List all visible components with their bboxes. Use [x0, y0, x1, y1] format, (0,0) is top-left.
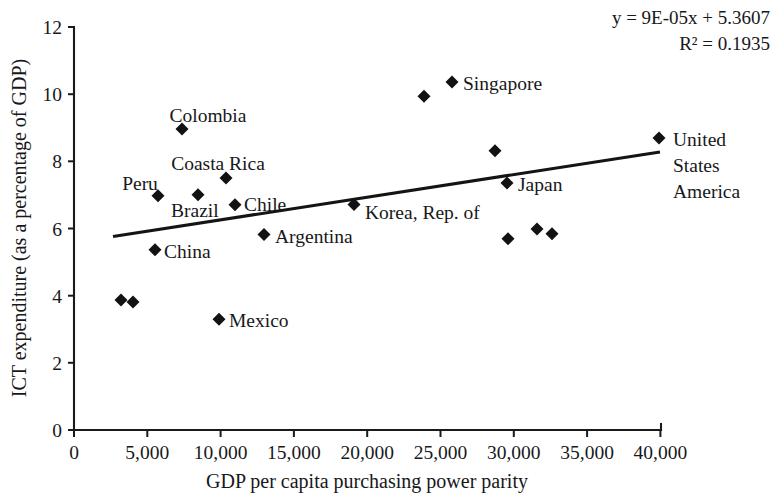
x-tick-label-0: 0	[69, 442, 79, 463]
chart-svg: 0 2 4 6 8 10 12 0 5,000 10,000 15,000 20…	[0, 0, 775, 500]
point-label-colombia: Colombia	[170, 105, 247, 126]
y-tick-label-12: 12	[43, 17, 63, 38]
data-point	[127, 296, 140, 309]
x-tick-label-10000: 10,000	[194, 442, 248, 463]
y-tick-label-8: 8	[52, 151, 62, 172]
point-label-chile: Chile	[244, 194, 286, 215]
point-label-brazil: Brazil	[171, 200, 219, 221]
y-axis-title: ICT expenditure (as a percentage of GDP)	[8, 59, 31, 397]
point-label-costa-rica: Coasta Rica	[171, 153, 265, 174]
x-tick-label-30000: 30,000	[487, 442, 541, 463]
r-squared-label: R² = 0.1935	[679, 33, 770, 54]
point-labels: China Peru Colombia Brazil Mexico Coasta…	[122, 73, 740, 331]
point-label-argentina: Argentina	[275, 226, 353, 247]
y-tick-label-4: 4	[52, 286, 62, 307]
point-label-korea: Korea, Rep. of	[365, 202, 480, 223]
data-point	[115, 294, 128, 307]
x-tick-label-5000: 5,000	[125, 442, 169, 463]
point-label-china: China	[164, 241, 211, 262]
data-point-mexico	[213, 313, 226, 326]
data-point	[531, 223, 544, 236]
x-tick-label-40000: 40,000	[634, 442, 688, 463]
y-axis-tick-labels: 0 2 4 6 8 10 12	[43, 17, 63, 441]
point-label-singapore: Singapore	[463, 73, 542, 94]
data-point	[489, 144, 502, 157]
point-label-usa-line1: United	[673, 129, 726, 150]
y-tick-label-10: 10	[43, 84, 63, 105]
y-tick-label-2: 2	[52, 353, 62, 374]
point-label-peru: Peru	[122, 173, 158, 194]
data-point-usa	[653, 132, 666, 145]
data-point-japan	[501, 177, 514, 190]
x-tick-label-20000: 20,000	[340, 442, 394, 463]
x-axis-title: GDP per capita purchasing power parity	[206, 470, 528, 493]
x-tick-label-35000: 35,000	[560, 442, 614, 463]
data-point	[502, 232, 515, 245]
data-point	[546, 227, 559, 240]
x-axis-tick-labels: 0 5,000 10,000 15,000 20,000 25,000 30,0…	[69, 442, 687, 463]
point-label-japan: Japan	[518, 174, 563, 195]
x-tick-label-15000: 15,000	[267, 442, 321, 463]
y-tick-label-0: 0	[52, 420, 62, 441]
scatter-chart: 0 2 4 6 8 10 12 0 5,000 10,000 15,000 20…	[0, 0, 775, 500]
data-point-argentina	[258, 228, 271, 241]
point-label-usa-line2: States	[673, 155, 720, 176]
data-point-singapore	[446, 76, 459, 89]
point-label-mexico: Mexico	[229, 310, 289, 331]
point-label-usa-line3: America	[673, 181, 740, 202]
data-point-china	[149, 243, 162, 256]
x-tick-label-25000: 25,000	[414, 442, 468, 463]
y-tick-label-6: 6	[52, 219, 62, 240]
regression-equation: y = 9E-05x + 5.3607	[612, 7, 770, 28]
data-point	[418, 90, 431, 103]
data-point-chile	[229, 198, 242, 211]
